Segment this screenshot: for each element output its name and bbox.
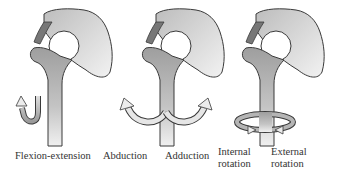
label-internal-rotation: Internal rotation bbox=[218, 146, 251, 170]
label-external-line1: External bbox=[271, 146, 307, 158]
label-internal-line2: rotation bbox=[218, 158, 251, 170]
label-external-rotation: External rotation bbox=[271, 146, 307, 170]
panel-rotation bbox=[237, 9, 324, 146]
panel-abduction-adduction bbox=[120, 9, 224, 146]
label-adduction: Adduction bbox=[165, 150, 209, 162]
label-abduction: Abduction bbox=[103, 150, 147, 162]
panel-flexion-extension bbox=[16, 9, 112, 146]
flexion-extension-arrow-icon bbox=[16, 96, 38, 122]
rotation-arrows-icon bbox=[237, 112, 293, 134]
label-external-line2: rotation bbox=[271, 158, 307, 170]
label-flexion-extension: Flexion-extension bbox=[15, 150, 91, 162]
label-internal-line1: Internal bbox=[218, 146, 251, 158]
